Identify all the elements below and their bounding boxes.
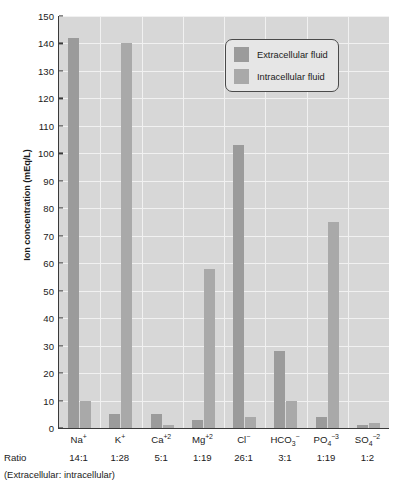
bar-intracellular [286, 401, 297, 428]
ratio-value: 1:28 [99, 452, 140, 463]
ratio-value: 14:1 [58, 452, 99, 463]
ratio-value: 3:1 [264, 452, 305, 463]
y-axis-tick-label: 0 [49, 423, 59, 434]
x-axis-tick-label: K+ [99, 433, 140, 445]
bar-group [348, 16, 389, 428]
y-axis-tick-label: 140 [38, 38, 59, 49]
bar-intracellular [163, 425, 174, 428]
bar-group [183, 16, 224, 428]
bar-group [100, 16, 141, 428]
bar-group [142, 16, 183, 428]
legend-item-extracellular: Extracellular fluid [234, 47, 328, 62]
legend-label-extracellular: Extracellular fluid [257, 50, 328, 60]
bar-intracellular [369, 423, 380, 428]
ratio-value: 26:1 [223, 452, 264, 463]
ratio-value: 5:1 [141, 452, 182, 463]
y-axis-tick-label: 20 [43, 368, 59, 379]
ratio-value: 1:19 [306, 452, 347, 463]
ratio-row-label: Ratio [4, 452, 26, 463]
ratio-value: 1:19 [182, 452, 223, 463]
bar-intracellular [80, 401, 91, 428]
y-axis-tick-label: 150 [38, 11, 59, 22]
bar-extracellular [151, 414, 162, 428]
bar-extracellular [233, 145, 244, 428]
bar-intracellular [245, 417, 256, 428]
y-axis-tick-label: 10 [43, 395, 59, 406]
x-axis-tick-label: HCO3− [264, 433, 305, 447]
y-axis-tick-label: 120 [38, 93, 59, 104]
bar-extracellular [316, 417, 327, 428]
bar-intracellular [328, 222, 339, 428]
legend-swatch-icon-extracellular [234, 47, 249, 62]
x-axis-tick-label: Mg+2 [182, 433, 223, 445]
y-axis-tick-label: 50 [43, 285, 59, 296]
y-axis-tick-label: 110 [39, 120, 59, 131]
plot-area: 0102030405060708090100110120130140150 [58, 16, 389, 429]
y-axis-title: Ion concentration (mEq/L) [22, 90, 32, 320]
bar-intracellular [121, 43, 132, 428]
y-axis-tick-label: 80 [43, 203, 59, 214]
bar-extracellular [109, 414, 120, 428]
x-axis-tick-label: Ca+2 [141, 433, 182, 445]
legend-item-intracellular: Intracellular fluid [234, 69, 328, 84]
x-axis-tick-label: Cl− [223, 433, 264, 445]
y-axis-tick-label: 100 [38, 148, 59, 159]
legend-label-intracellular: Intracellular fluid [257, 72, 325, 82]
y-axis-tick-label: 90 [43, 175, 59, 186]
bar-extracellular [68, 38, 79, 428]
chart-footnote: (Extracellular: intracellular) [4, 469, 115, 480]
legend-swatch-icon-intracellular [234, 69, 249, 84]
bar-extracellular [192, 420, 203, 428]
bar-group [59, 16, 100, 428]
y-axis-tick-label: 130 [38, 65, 59, 76]
y-axis-tick-label: 70 [43, 230, 59, 241]
y-axis-tick-label: 40 [43, 313, 59, 324]
x-axis-tick-label: Na+ [58, 433, 99, 445]
bar-intracellular [204, 269, 215, 428]
x-axis-tick-label: PO4−3 [306, 433, 347, 447]
bar-extracellular [274, 351, 285, 428]
chart-legend: Extracellular fluid Intracellular fluid [225, 39, 339, 92]
y-axis-tick-label: 30 [43, 340, 59, 351]
bar-extracellular [357, 425, 368, 428]
x-axis-tick-label: SO4−2 [347, 433, 388, 447]
y-axis-tick-label: 60 [43, 258, 59, 269]
ion-concentration-chart: Ion concentration (mEq/L) 01020304050607… [0, 0, 396, 490]
ratio-value: 1:2 [347, 452, 388, 463]
